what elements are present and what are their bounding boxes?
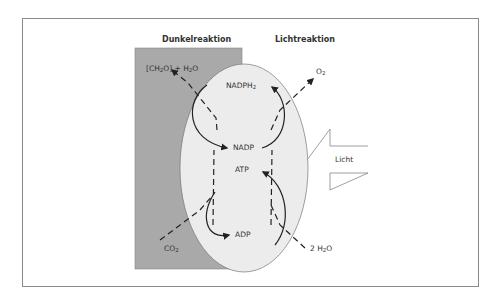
label-co2: CO2 — [164, 245, 179, 254]
header-light-reaction: Lichtreaktion — [275, 35, 335, 44]
label-atp: ATP — [235, 166, 249, 174]
label-o2: O2 — [316, 68, 325, 77]
label-adp: ADP — [235, 231, 250, 239]
label-licht: Licht — [335, 156, 353, 164]
label-2h2o: 2 H2O — [310, 245, 332, 254]
label-nadp: NADP — [233, 144, 254, 152]
label-dark-products: [CH2O] + H2O — [146, 65, 198, 74]
label-nadph2: NADPH2 — [226, 82, 256, 91]
header-dark-reaction: Dunkelreaktion — [162, 35, 231, 44]
